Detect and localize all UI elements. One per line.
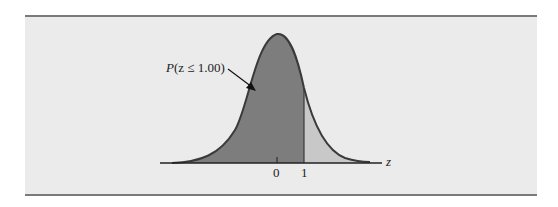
tick-label-1: 1 <box>301 165 308 180</box>
annotation-rest: (z ≤ 1.00) <box>174 60 225 75</box>
right-tail-area <box>304 88 372 163</box>
axis-label-z: z <box>385 154 391 169</box>
shaded-area-left-of-1 <box>172 34 304 163</box>
normal-curve-chart: 0 1 z P(z ≤ 1.00) <box>0 0 558 207</box>
annotation-label: P(z ≤ 1.00) <box>165 60 225 75</box>
annotation-arrow-shaft <box>228 69 252 87</box>
annotation-prefix: P <box>165 60 174 75</box>
tick-label-0: 0 <box>273 165 280 180</box>
